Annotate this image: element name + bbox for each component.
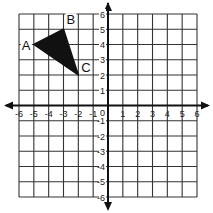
y-tick-label: -3: [97, 147, 105, 157]
y-tick-label: 6: [100, 10, 105, 20]
y-axis-down-arrow-icon: [104, 202, 112, 211]
x-tick-label: -2: [74, 109, 82, 119]
x-tick-label: 6: [194, 109, 199, 119]
x-tick-label: -4: [45, 109, 53, 119]
triangle-abc: ABC: [21, 12, 92, 75]
x-axis-right-arrow-icon: [201, 102, 210, 110]
vertex-label-a: A: [22, 38, 31, 53]
axes: [4, 2, 210, 211]
x-tick-label: -5: [30, 109, 38, 119]
x-tick-label: -3: [59, 109, 67, 119]
origin-label: 0: [100, 108, 105, 118]
x-tick-label: -1: [89, 109, 97, 119]
x-axis-left-arrow-icon: [4, 102, 13, 110]
x-tick-label: 2: [135, 109, 140, 119]
y-tick-label: 5: [100, 25, 105, 35]
vertex-label-b: B: [67, 12, 76, 27]
y-tick-label: -4: [97, 162, 105, 172]
y-tick-label: -6: [97, 193, 105, 203]
x-tick-label: 4: [165, 109, 170, 119]
triangle-fill: [34, 29, 79, 75]
x-tick-label: 1: [120, 109, 125, 119]
y-tick-label: -5: [97, 177, 105, 187]
y-tick-label: 2: [100, 71, 105, 81]
x-tick-label: 3: [150, 109, 155, 119]
y-tick-label: -1: [97, 116, 105, 126]
y-tick-label: -2: [97, 132, 105, 142]
y-tick-label: 1: [100, 86, 105, 96]
x-tick-label: -6: [15, 109, 23, 119]
y-tick-label: 4: [100, 40, 105, 50]
x-tick-label: 5: [180, 109, 185, 119]
vertex-label-c: C: [81, 60, 90, 75]
coordinate-plane-svg: -6-5-4-3-2-1123456654321-1-2-3-4-5-60 AB…: [0, 0, 213, 213]
y-tick-label: 3: [100, 55, 105, 65]
coordinate-plane: -6-5-4-3-2-1123456654321-1-2-3-4-5-60 AB…: [0, 0, 213, 213]
